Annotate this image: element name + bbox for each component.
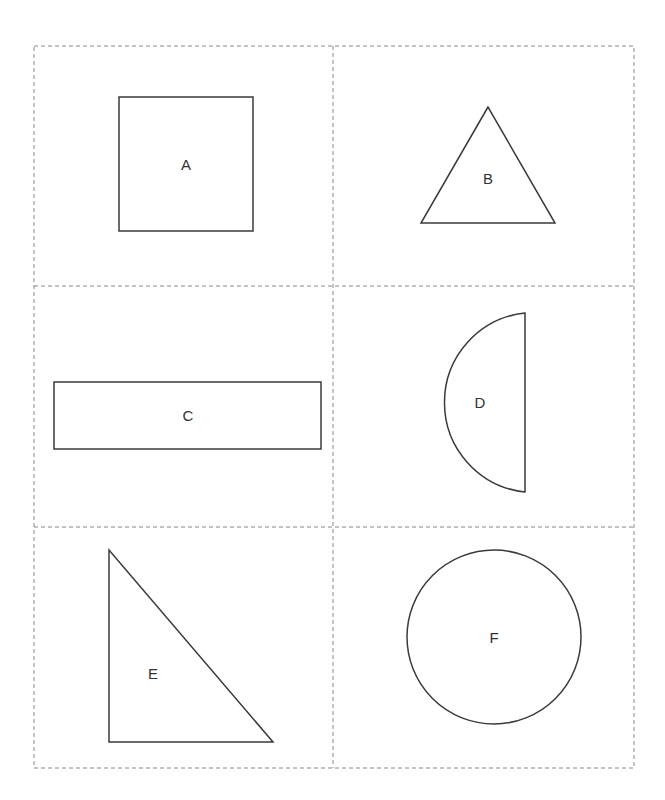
grid-outer-border	[34, 46, 634, 768]
cut-grid	[34, 46, 634, 768]
shape-e-right-triangle: E	[109, 550, 273, 742]
shape-f-circle: F	[407, 550, 581, 724]
right-triangle-outline	[109, 550, 273, 742]
shape-label-e: E	[148, 665, 158, 682]
shape-a-square: A	[119, 97, 253, 231]
shape-b-triangle: B	[421, 107, 555, 223]
shape-label-f: F	[489, 629, 498, 646]
shape-label-b: B	[483, 170, 493, 187]
triangle-outline	[421, 107, 555, 223]
shape-d-semicircle: D	[444, 313, 525, 492]
shape-label-c: C	[183, 407, 194, 424]
shape-label-d: D	[475, 394, 486, 411]
shape-label-a: A	[181, 156, 191, 173]
shape-cutout-sheet: A B C D E F	[0, 0, 665, 800]
shape-c-rectangle: C	[54, 382, 321, 449]
